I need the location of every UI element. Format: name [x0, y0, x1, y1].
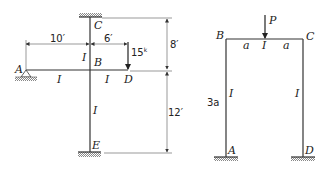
dim-cb: 8′	[170, 39, 179, 50]
node-d: D	[304, 144, 314, 157]
load-p: P	[268, 14, 277, 27]
dim-a-left: a	[243, 39, 250, 52]
member-ab-label: I	[228, 87, 234, 100]
member-bd-label: I	[104, 73, 110, 86]
node-e: E	[91, 139, 100, 152]
node-c: C	[306, 30, 315, 43]
fixed-support-d	[291, 157, 315, 161]
member-ab-label: I	[56, 73, 62, 86]
fixed-support-e	[78, 152, 101, 157]
node-b: B	[93, 56, 102, 69]
left-frame-diagram: 15k 10′ 6′ 8′ 12′ C B A D E I I I I	[14, 13, 184, 157]
member-be-label: I	[92, 104, 98, 117]
dim-a-right: a	[283, 39, 290, 52]
right-frame-diagram: P B C A D a I a 3a I I	[207, 14, 315, 161]
fixed-support-a	[214, 157, 238, 161]
node-c: C	[94, 19, 103, 32]
node-b: B	[215, 29, 224, 42]
dim-height: 3a	[207, 97, 220, 108]
load-value: 15k	[131, 46, 148, 58]
node-d: D	[123, 73, 133, 86]
dim-be: 12′	[168, 107, 184, 118]
member-bc-label: I	[261, 39, 267, 52]
node-a: A	[227, 144, 236, 157]
dim-ab: 10′	[50, 33, 66, 44]
node-a: A	[14, 63, 23, 76]
structural-diagrams: 15k 10′ 6′ 8′ 12′ C B A D E I I I I	[0, 0, 324, 174]
member-bc-label: I	[81, 51, 87, 64]
dim-bd: 6′	[104, 33, 113, 44]
member-cd-label: I	[294, 87, 300, 100]
